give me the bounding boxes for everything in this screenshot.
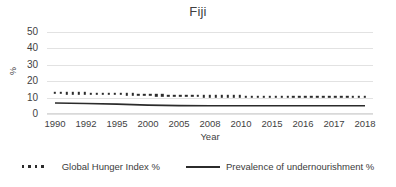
series-dot: [54, 92, 56, 94]
series-dot: [131, 93, 133, 95]
series-dot: [209, 95, 211, 97]
x-axis-tick-2015: 2015: [261, 118, 282, 130]
gridline-0: [47, 114, 373, 115]
solid-line-marker-icon: [186, 166, 220, 168]
series-dot: [125, 93, 127, 95]
x-axis-title: Year: [47, 131, 373, 142]
series-dot: [155, 94, 157, 96]
series-dot: [119, 93, 121, 95]
y-axis-tick-0: 0: [32, 109, 38, 119]
series-dot: [364, 96, 366, 98]
y-axis-tick-20: 20: [27, 76, 38, 86]
series-dot: [60, 92, 62, 94]
series-dot: [334, 96, 336, 98]
series-dot: [90, 92, 92, 94]
x-axis-tick-2010: 2010: [230, 118, 251, 130]
series-dot: [274, 96, 276, 98]
series-dot: [262, 95, 264, 97]
chart-container: Fiji % 01020304050 199019921995200020052…: [0, 0, 396, 187]
chart-title: Fiji: [0, 4, 396, 19]
x-axis-tick-1995: 1995: [106, 118, 127, 130]
x-axis-tick-1990: 1990: [44, 118, 65, 130]
series-dot: [179, 95, 181, 97]
series-dot: [346, 96, 348, 98]
series-dot: [358, 96, 360, 98]
series-dot: [340, 96, 342, 98]
series-dot: [316, 96, 318, 98]
series-dot: [167, 94, 169, 96]
series-dot: [161, 94, 163, 96]
series-dot: [137, 93, 139, 95]
y-axis-tick-labels: 01020304050: [0, 32, 42, 114]
y-axis-tick-30: 30: [27, 60, 38, 70]
series-dot: [298, 96, 300, 98]
series-dot: [78, 92, 80, 94]
series-dot: [268, 96, 270, 98]
x-axis-tick-labels: 1990199219952000200520082010201520162017…: [47, 118, 373, 132]
legend-item-0[interactable]: Global Hunger Index %: [22, 161, 160, 172]
series-dot: [245, 95, 247, 97]
series-dot: [113, 93, 115, 95]
x-axis-tick-2008: 2008: [199, 118, 220, 130]
x-axis-tick-2018: 2018: [354, 118, 375, 130]
series-dot: [233, 95, 235, 97]
series-dot: [328, 96, 330, 98]
legend-item-label: Prevalence of undernourishment %: [226, 161, 374, 172]
series-dot: [185, 95, 187, 97]
x-axis-tick-2016: 2016: [292, 118, 313, 130]
y-axis-tick-10: 10: [27, 93, 38, 103]
series-dot: [72, 92, 74, 94]
series-dot: [280, 96, 282, 98]
series-dot: [149, 94, 151, 96]
series-dot: [304, 96, 306, 98]
series-dot: [256, 95, 258, 97]
series-layer: [47, 32, 373, 114]
plot-area: [47, 32, 373, 114]
series-dot: [239, 95, 241, 97]
x-axis-tick-2000: 2000: [137, 118, 158, 130]
x-axis-tick-2005: 2005: [168, 118, 189, 130]
series-dot: [215, 95, 217, 97]
series-dot: [352, 96, 354, 98]
legend-item-1[interactable]: Prevalence of undernourishment %: [186, 161, 374, 172]
series-dot: [197, 95, 199, 97]
series-dot: [66, 92, 68, 94]
y-axis-tick-50: 50: [27, 27, 38, 37]
legend-item-label: Global Hunger Index %: [62, 161, 160, 172]
series-dot: [101, 93, 103, 95]
x-axis-tick-2017: 2017: [323, 118, 344, 130]
series-dot: [191, 95, 193, 97]
series-dot: [310, 96, 312, 98]
y-axis-tick-40: 40: [27, 43, 38, 53]
series-dot: [251, 95, 253, 97]
chart-legend: Global Hunger Index %Prevalence of under…: [0, 161, 396, 172]
x-axis-tick-1992: 1992: [75, 118, 96, 130]
series-dot: [173, 94, 175, 96]
series-dot: [221, 95, 223, 97]
series-dot: [286, 96, 288, 98]
series-dot: [96, 92, 98, 94]
series-dot: [143, 94, 145, 96]
series-dot: [107, 93, 109, 95]
dotted-line-marker-icon: [22, 165, 56, 168]
series-dot: [292, 96, 294, 98]
series-line-1: [55, 103, 365, 106]
series-dot: [227, 95, 229, 97]
series-dot: [203, 95, 205, 97]
series-dot: [84, 92, 86, 94]
series-dot: [322, 96, 324, 98]
